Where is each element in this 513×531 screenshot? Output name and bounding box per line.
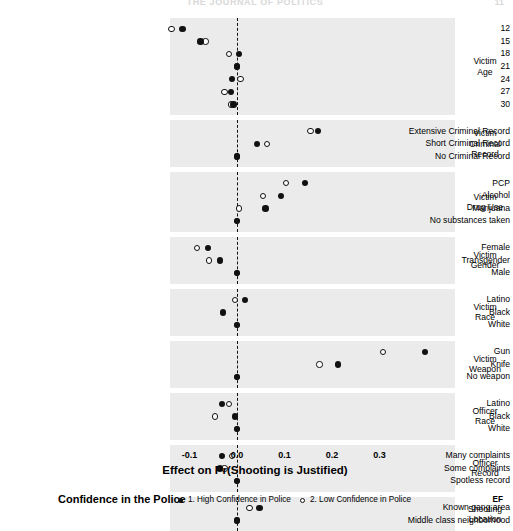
point-high-confidence (230, 101, 236, 107)
point-low-confidence (168, 26, 174, 32)
x-tick-label: 0.2 (312, 450, 352, 460)
row-label: Alcohol (342, 191, 510, 200)
row-label: Gun (342, 347, 510, 356)
row-label: 24 (342, 75, 510, 84)
row-label: White (342, 424, 510, 433)
point-low-confidence (260, 193, 266, 199)
legend-title: Confidence in the Police (58, 493, 186, 505)
point-high-confidence (234, 426, 240, 432)
point-high-confidence (229, 76, 235, 82)
row-label: No weapon (342, 372, 510, 381)
point-high-confidence (197, 38, 203, 44)
point-high-confidence (335, 361, 341, 367)
point-high-confidence (234, 153, 240, 159)
point-low-confidence (212, 413, 218, 419)
x-tick-label: 0.1 (265, 450, 305, 460)
row-label: 15 (342, 37, 510, 46)
point-low-confidence (221, 89, 227, 95)
row-label: Middle class neighborhood (342, 516, 510, 525)
point-high-confidence (228, 89, 234, 95)
point-high-confidence (232, 413, 238, 419)
point-low-confidence (283, 180, 289, 186)
point-high-confidence (234, 218, 240, 224)
point-high-confidence (217, 257, 223, 263)
point-high-confidence (234, 270, 240, 276)
point-low-confidence (307, 128, 313, 134)
point-high-confidence (236, 51, 242, 57)
row-label: Latino (342, 295, 510, 304)
coefficient-plot: VictimAge12151821242730VictimCriminalRec… (0, 18, 510, 448)
row-label: 18 (342, 49, 510, 58)
running-head: THE JOURNAL OF POLITICS (0, 0, 510, 7)
zero-reference-line (237, 341, 238, 388)
row-label: Marijuana (342, 204, 510, 213)
legend-label: 2. Low Confidence in Police (310, 495, 411, 504)
row-label: Black (342, 412, 510, 421)
row-label: White (342, 320, 510, 329)
point-high-confidence (234, 322, 240, 328)
corner-note: EF (493, 495, 503, 504)
x-tick-label: 0.0 (217, 450, 257, 460)
point-low-confidence (206, 257, 212, 263)
point-low-confidence (264, 141, 270, 147)
row-label: 27 (342, 87, 510, 96)
page-folio: 11 (494, 0, 504, 7)
row-label: 21 (342, 62, 510, 71)
point-high-confidence (254, 141, 260, 147)
row-label: Latino (342, 399, 510, 408)
point-high-confidence (234, 63, 240, 69)
point-high-confidence (219, 401, 225, 407)
row-label: Knife (342, 360, 510, 369)
row-label: 12 (342, 24, 510, 33)
point-high-confidence (262, 205, 268, 211)
point-high-confidence (302, 180, 308, 186)
point-low-confidence (194, 245, 200, 251)
point-low-confidence (316, 361, 322, 367)
row-label: Female (342, 243, 510, 252)
x-tick-label: -0.1 (170, 450, 210, 460)
point-high-confidence (205, 245, 211, 251)
point-low-confidence (236, 205, 242, 211)
x-axis: -0.10.00.10.20.3 Effect on Pr(Shooting i… (0, 450, 510, 480)
point-high-confidence (234, 517, 240, 523)
point-high-confidence (315, 128, 321, 134)
zero-reference-line (237, 120, 238, 167)
row-label: Male (342, 268, 510, 277)
legend-label: 1. High Confidence in Police (188, 495, 291, 504)
point-high-confidence (179, 26, 185, 32)
point-low-confidence (237, 76, 243, 82)
chart-legend: Confidence in the Police 1. High Confide… (0, 492, 510, 512)
point-low-confidence (226, 401, 232, 407)
row-label: 30 (342, 100, 510, 109)
point-high-confidence (242, 297, 248, 303)
row-label: Extensive Criminal Record (342, 127, 510, 136)
point-low-confidence (226, 51, 232, 57)
row-label: No Criminal Record (342, 152, 510, 161)
x-tick-label: 0.3 (360, 450, 400, 460)
row-label: Short Criminal Record (342, 139, 510, 148)
row-label: Transgender (342, 256, 510, 265)
row-label: Black (342, 308, 510, 317)
zero-reference-line (237, 289, 238, 336)
x-axis-label: Effect on Pr(Shooting is Justified) (0, 464, 510, 476)
point-high-confidence (234, 374, 240, 380)
legend-marker-low (300, 498, 305, 503)
row-label: PCP (342, 179, 510, 188)
point-high-confidence (220, 309, 226, 315)
point-high-confidence (278, 193, 284, 199)
row-label: No substances taken (342, 216, 510, 225)
zero-reference-line (237, 237, 238, 284)
